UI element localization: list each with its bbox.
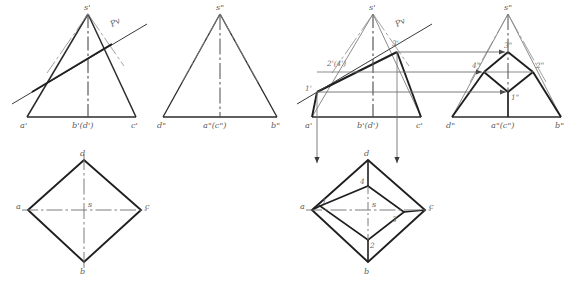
label-d-br: d — [364, 148, 369, 158]
label-point-2-dprime: 2" — [535, 61, 544, 70]
label-d-dprime-trr: d" — [446, 120, 455, 130]
label-point-24-prime: 2'(4') — [326, 59, 346, 68]
label-a-br: a — [300, 201, 305, 211]
label-apex-tl: s' — [84, 2, 90, 12]
label-point-1-dprime: 1" — [511, 93, 519, 102]
label-point-1-top: 1 — [322, 197, 327, 206]
label-ac-dprime-tm: a"(c") — [203, 120, 226, 130]
label-apex-trr: s" — [504, 2, 512, 12]
label-point-3-prime: 3' — [392, 39, 399, 48]
label-point-3-dprime: 3" — [504, 41, 512, 50]
label-b-dprime-tm: b" — [271, 120, 280, 130]
label-a-prime-tl: a' — [20, 120, 27, 130]
label-point-1-prime: 1' — [305, 84, 312, 93]
page-background — [0, 0, 570, 289]
label-b-br: b — [364, 266, 369, 276]
label-apex-tr: s' — [369, 2, 375, 12]
drawing-page: s' a' b'(d') c' Pv s" d" a"(c") b" — [0, 0, 570, 289]
label-point-4-top: 4 — [359, 177, 365, 186]
label-a-prime-tr: a' — [305, 120, 312, 130]
label-b-bl: b — [80, 266, 85, 276]
label-ac-dprime-trr: a"(c") — [491, 120, 514, 130]
label-point-3-top: 3 — [392, 215, 397, 224]
label-d-bl: d — [80, 148, 85, 158]
label-s-bl: s — [88, 199, 92, 209]
label-bd-prime-tr: b'(d') — [357, 120, 378, 130]
label-bd-prime-tl: b'(d') — [72, 120, 93, 130]
label-c-prime-tr: c' — [416, 120, 423, 130]
label-c-br: c — [429, 201, 434, 211]
label-c-bl: c — [145, 201, 150, 211]
label-b-dprime-trr: b" — [555, 120, 564, 130]
technical-drawing-canvas: s' a' b'(d') c' Pv s" d" a"(c") b" — [0, 0, 570, 289]
label-point-2-top: 2 — [369, 241, 375, 250]
label-point-4-dprime: 4" — [471, 61, 480, 70]
label-d-dprime-tm: d" — [157, 120, 166, 130]
label-c-prime-tl: c' — [131, 120, 138, 130]
label-a-bl: a — [16, 201, 21, 211]
label-apex-tm: s" — [216, 2, 224, 12]
label-s-br: s — [372, 199, 376, 209]
